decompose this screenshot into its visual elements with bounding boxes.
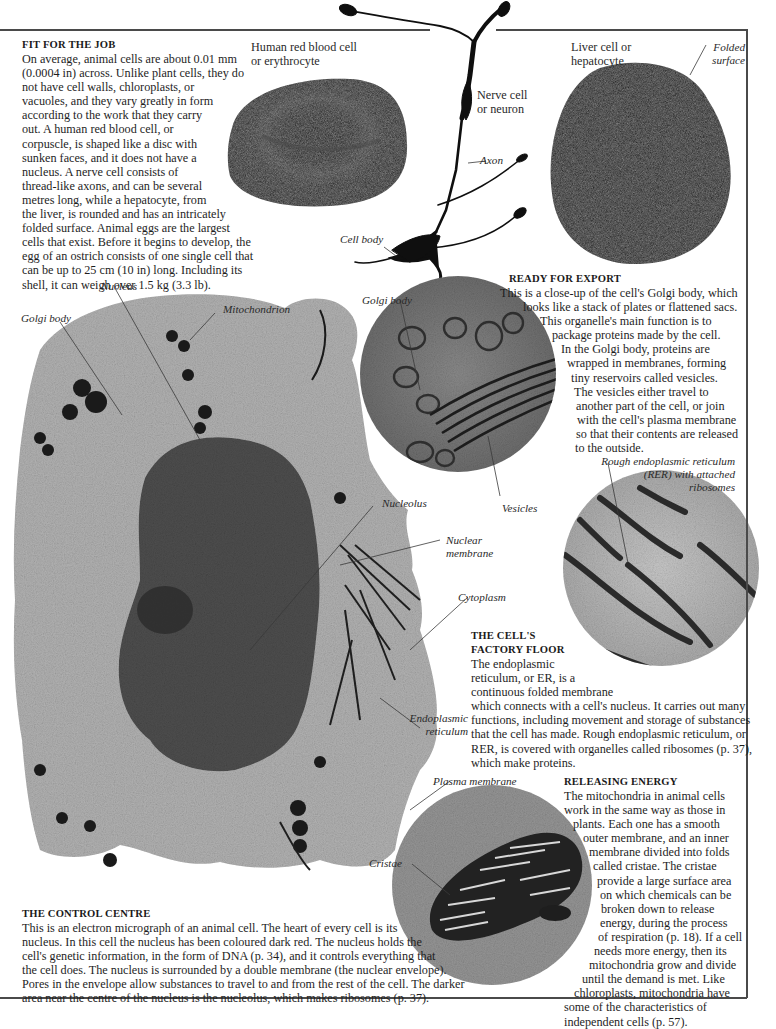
body-line: egg of an ostrich consists of one single…: [22, 249, 253, 263]
body-line: another part of the cell, or join: [576, 399, 738, 413]
body-line: In the Golgi body, proteins are: [561, 342, 738, 356]
label-plasma-membrane: Plasma membrane: [433, 775, 517, 788]
body-line: provide a large surface area: [597, 874, 742, 888]
label-nuclear-membrane: Nuclear membrane: [446, 534, 493, 560]
body-line: broken down to release: [601, 902, 742, 916]
body-line: called cristae. The cristae: [593, 859, 742, 873]
body-line: according to the work that they carry: [22, 108, 253, 122]
label-rer: Rough endoplasmic reticulum (RER) with a…: [560, 455, 735, 493]
body-line: On average, animal cells are about 0.01 …: [22, 52, 253, 66]
releasing-energy-section: RELEASING ENERGY The mitochondria in ani…: [564, 775, 742, 1029]
body-line: nucleus. In this cell the nucleus has be…: [22, 935, 464, 949]
label-golgi-body-inset: Golgi body: [362, 294, 412, 307]
label-cell-body: Cell body: [340, 233, 383, 246]
body-line: independent cells (p. 57).: [564, 1015, 742, 1029]
body-line: cell's genetic information, in the form …: [22, 949, 464, 963]
body-line: which make proteins.: [471, 756, 752, 770]
top-rule-right: [496, 29, 747, 31]
red-blood-cell-image: [228, 79, 407, 207]
section-heading: THE CELL'S: [471, 629, 752, 643]
right-border: [746, 29, 748, 998]
body-line: continuous folded membrane: [471, 685, 752, 699]
body-line: tiny reservoirs called vesicles.: [571, 371, 738, 385]
body-line: with the cell's plasma membrane: [577, 413, 738, 427]
body-line: reticulum, or ER, is a: [471, 671, 752, 685]
label-cristae: Cristae: [369, 857, 402, 870]
liver-cell-image: [551, 63, 731, 264]
body-line: can be up to 25 cm (10 in) long. Includi…: [22, 263, 253, 277]
body-line: This is an electron micrograph of an ani…: [22, 921, 464, 935]
top-rule-left: [0, 29, 430, 31]
body-line: work in the same way as those in: [564, 803, 742, 817]
body-line: thread-like axons, and can be several: [22, 179, 253, 193]
control-centre-section: THE CONTROL CENTRE This is an electron m…: [22, 907, 464, 1006]
body-line: so that their contents are released: [576, 427, 738, 441]
label-liver-cell: Liver cell or hepatocyte: [571, 41, 631, 68]
label-nerve-cell: Nerve cell or neuron: [477, 89, 527, 116]
label-nucleus: Nucleus: [101, 280, 137, 293]
body-line: needs more energy, then its: [594, 944, 742, 958]
body-line: energy, during the process: [600, 916, 742, 930]
body-line: RER, is covered with organelles called r…: [471, 742, 752, 756]
body-line: The endoplasmic: [471, 657, 752, 671]
label-cytoplasm: Cytoplasm: [458, 591, 506, 604]
body-line: This organelle's main function is to: [540, 314, 738, 328]
label-red-blood-cell: Human red blood cell or erythrocyte: [251, 41, 357, 68]
body-line: on which chemicals can be: [600, 888, 742, 902]
label-vesicles: Vesicles: [502, 502, 537, 515]
body-line: the cell does. The nucleus is surrounded…: [22, 963, 464, 977]
body-line: folded surface. Animal eggs are the larg…: [22, 221, 253, 235]
body-line: some of the characteristics of: [564, 1000, 742, 1014]
body-line: not have cell walls, chloroplasts, or: [22, 80, 253, 94]
section-heading: FACTORY FLOOR: [471, 643, 752, 657]
label-folded-surface: Folded surface: [700, 41, 745, 67]
body-line: package proteins made by the cell.: [552, 328, 738, 342]
ready-for-export-section: READY FOR EXPORT This is a close-up of t…: [509, 272, 738, 455]
body-line: shell, it can weigh over 1.5 kg (3.3 lb)…: [22, 278, 253, 292]
body-line: The vesicles either travel to: [574, 385, 738, 399]
body-line: The mitochondria in animal cells: [564, 789, 742, 803]
fit-for-the-job-section: FIT FOR THE JOB On average, animal cells…: [22, 38, 253, 292]
body-line: Pores in the envelope allow substances t…: [22, 977, 464, 991]
label-endoplasmic-reticulum: Endoplasmic reticulum: [398, 712, 468, 738]
body-line: corpuscle, is shaped like a disc with: [22, 137, 253, 151]
section-heading: READY FOR EXPORT: [509, 272, 738, 286]
factory-floor-section: THE CELL'S FACTORY FLOOR The endoplasmic…: [471, 629, 752, 770]
body-line: looks like a stack of plates or flattene…: [523, 300, 738, 314]
body-line: outer membrane, and an inner: [583, 831, 742, 845]
body-line: until the demand is met. Like: [582, 972, 742, 986]
body-line: (0.0004 in) across. Unlike plant cells, …: [22, 66, 253, 80]
body-line: wrapped in membranes, forming: [567, 356, 738, 370]
body-line: vacuoles, and they vary greatly in form: [22, 94, 253, 108]
body-line: of respiration (p. 18). If a cell: [598, 930, 742, 944]
body-line: the liver, is rounded and has an intrica…: [22, 207, 253, 221]
section-heading: THE CONTROL CENTRE: [22, 907, 464, 921]
body-line: This is a close-up of the cell's Golgi b…: [500, 286, 738, 300]
label-golgi-body: Golgi body: [21, 312, 71, 325]
body-line: chloroplasts, mitochondria have: [574, 986, 742, 1000]
label-axon: Axon: [480, 154, 503, 167]
section-heading: RELEASING ENERGY: [564, 775, 742, 789]
body-line: out. A human red blood cell, or: [22, 122, 253, 136]
body-line: cells that exist. Before it begins to de…: [22, 235, 253, 249]
body-line: plants. Each one has a smooth: [573, 817, 742, 831]
body-line: nucleus. A nerve cell consists of: [22, 165, 253, 179]
body-line: which connects with a cell's nucleus. It…: [471, 699, 752, 713]
body-line: metres long, while a hepatocyte, from: [22, 193, 253, 207]
body-line: to the outside.: [575, 441, 738, 455]
body-line: membrane divided into folds: [589, 845, 742, 859]
body-line: area near the centre of the nucleus is t…: [22, 991, 464, 1005]
body-line: sunken faces, and it does not have a: [22, 151, 253, 165]
body-line: functions, including movement and storag…: [471, 713, 752, 727]
section-heading: FIT FOR THE JOB: [22, 38, 253, 52]
label-nucleolus: Nucleolus: [382, 497, 427, 510]
body-line: mitochondria grow and divide: [589, 958, 742, 972]
label-mitochondrion: Mitochondrion: [223, 303, 290, 316]
body-line: that the cell has made. Rough endoplasmi…: [471, 727, 752, 741]
